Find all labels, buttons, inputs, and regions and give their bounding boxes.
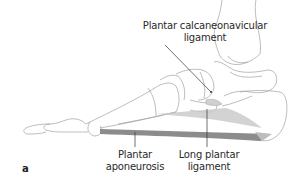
label-line: ligament xyxy=(172,161,246,173)
plantar-aponeurosis xyxy=(100,129,270,141)
leader-dot xyxy=(210,91,212,93)
label-line: Plantar xyxy=(103,149,167,161)
label-line: aponeurosis xyxy=(103,161,167,173)
metatarsal-bones xyxy=(86,83,179,128)
long-plantar-ligament xyxy=(156,108,262,128)
label-plantar-calcaneonavicular: Plantar calcaneonavicular ligament xyxy=(140,20,270,44)
plantar-calcaneonavicular-ligament xyxy=(206,99,222,105)
label-long-plantar: Long plantar ligament xyxy=(172,149,246,173)
label-line: Long plantar xyxy=(172,149,246,161)
midfoot-bones xyxy=(160,69,217,112)
label-line: ligament xyxy=(140,32,270,44)
label-line: Plantar calcaneonavicular xyxy=(140,20,270,32)
phalanges-bones xyxy=(24,119,102,136)
label-plantar-aponeurosis: Plantar aponeurosis xyxy=(103,149,167,173)
panel-label: a xyxy=(22,163,29,174)
